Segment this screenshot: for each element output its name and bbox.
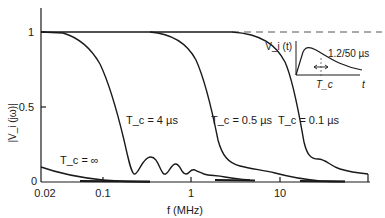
x-tick-0.1: 0.1 (95, 187, 110, 199)
frequency-response-chart: 1 0.5 0 0.02 0.1 1 10 f (MHz) |V_i (jω)|… (0, 0, 385, 218)
y-tick-1: 1 (28, 26, 34, 38)
y-axis-label: |V_i (jω)| (7, 103, 18, 142)
inset-waveform-label: 1.2/50 µs (328, 48, 369, 59)
x-axis-label: f (MHz) (167, 204, 203, 216)
inset-x-label: t (362, 79, 366, 90)
annotation-tc-0.1us: T_c = 0.1 µs (278, 114, 340, 126)
inset-waveform: V_i (t) 1.2/50 µs T_c t (265, 41, 369, 90)
x-tick-10: 10 (274, 187, 286, 199)
y-tick-0.5: 0.5 (19, 101, 34, 113)
x-tick-0.02: 0.02 (34, 187, 55, 199)
annotation-tc-0.5us: T_c = 0.5 µs (211, 114, 273, 126)
inset-tc-label: T_c (316, 79, 333, 90)
inset-y-label: V_i (t) (265, 41, 292, 52)
y-tick-0: 0 (31, 175, 37, 187)
annotation-tc-4us: T_c = 4 µs (126, 114, 178, 126)
x-tick-1: 1 (188, 187, 194, 199)
annotation-tc-infinity: T_c = ∞ (60, 154, 99, 166)
